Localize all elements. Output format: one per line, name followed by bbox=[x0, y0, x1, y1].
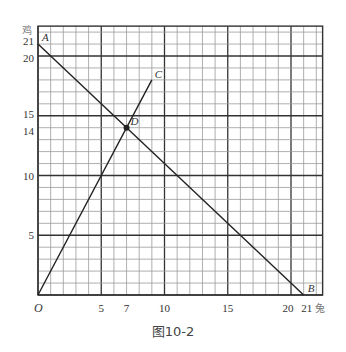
y-tick-label: 10 bbox=[23, 170, 35, 182]
x-tick-label: 21 bbox=[301, 302, 312, 314]
grid-border bbox=[38, 26, 323, 295]
x-tick-label: 15 bbox=[222, 302, 234, 314]
y-tick-label: 5 bbox=[29, 229, 35, 241]
x-tick-label: 7 bbox=[124, 302, 130, 314]
y-tick-label: 15 bbox=[23, 108, 35, 120]
figure-caption: 图10-2 bbox=[0, 321, 346, 340]
x-axis-label: 兔 bbox=[315, 302, 325, 314]
y-tick-label: 14 bbox=[23, 125, 35, 137]
point-label-c: C bbox=[155, 68, 163, 80]
point-label-a: A bbox=[41, 31, 49, 43]
point-label-b: B bbox=[308, 282, 315, 294]
line-ab bbox=[38, 44, 304, 295]
y-tick-label: 20 bbox=[23, 52, 35, 64]
x-tick-label: 10 bbox=[159, 302, 171, 314]
point-d-marker bbox=[124, 125, 130, 131]
coordinate-diagram: ABCDO571015202151014152021鸡兔 bbox=[0, 0, 346, 352]
x-tick-label: 5 bbox=[99, 302, 105, 314]
y-axis-label: 鸡 bbox=[22, 24, 32, 36]
origin-label: O bbox=[34, 301, 43, 315]
x-tick-label: 20 bbox=[283, 302, 295, 314]
y-tick-label: 21 bbox=[23, 35, 34, 47]
point-label-d: D bbox=[130, 115, 139, 127]
